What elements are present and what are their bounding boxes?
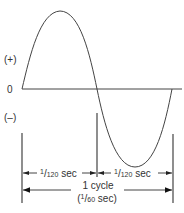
zero-label: 0 <box>7 84 13 95</box>
positive-label: (+) <box>4 54 17 65</box>
half-cycle-1-label: 1/120 sec <box>40 168 77 179</box>
negative-label: (–) <box>4 112 16 123</box>
half-cycle-2-label: 1/120 sec <box>114 168 151 179</box>
full-cycle-label: 1 cycle <box>82 180 114 191</box>
sine-wave-diagram: (+) 0 (–) 1/120 sec 1/120 sec 1 cycle (1… <box>0 0 184 213</box>
full-cycle-duration: (1/60 sec) <box>77 193 117 204</box>
